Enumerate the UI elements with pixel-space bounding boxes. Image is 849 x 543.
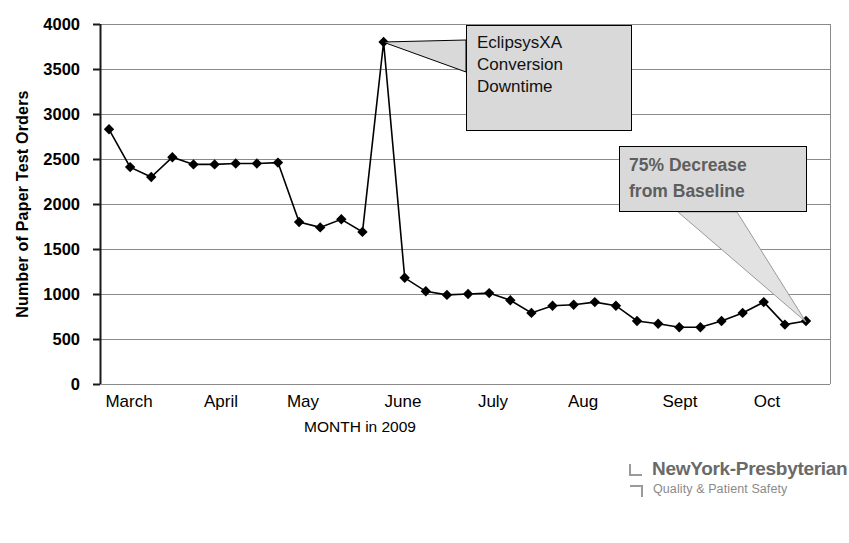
- data-point-marker: [716, 316, 726, 326]
- callout-percent-decrease: 75% Decrease from Baseline: [619, 146, 807, 212]
- logo-name: NewYork-Presbyterian: [652, 458, 847, 480]
- callout-eclipsys-line2: Conversion: [477, 54, 631, 76]
- data-point-marker: [568, 300, 578, 310]
- x-tick-oct: Oct: [712, 392, 822, 412]
- data-point-marker: [526, 308, 536, 318]
- callout-decrease-line2: from Baseline: [629, 178, 806, 204]
- data-point-marker: [695, 322, 705, 332]
- data-point-marker: [505, 295, 515, 305]
- logo-tagline: Quality & Patient Safety: [653, 482, 787, 496]
- data-point-marker: [674, 322, 684, 332]
- data-point-marker: [273, 157, 283, 167]
- callout-leader-eclipsys: [383, 40, 466, 72]
- data-point-marker: [315, 222, 325, 232]
- nyp-logo: NewYork-Presbyterian Quality & Patient S…: [628, 458, 843, 506]
- data-point-marker: [357, 227, 367, 237]
- data-point-marker: [484, 288, 494, 298]
- callout-eclipsys-line3: Downtime: [477, 76, 631, 98]
- data-point-marker: [653, 319, 663, 329]
- data-point-marker: [611, 301, 621, 311]
- data-point-marker: [737, 308, 747, 318]
- logo-bracket-icon: [628, 462, 648, 504]
- data-point-marker: [104, 124, 114, 134]
- callout-leader-decrease: [678, 212, 806, 322]
- y-axis-ticks: [93, 25, 100, 385]
- data-point-marker: [209, 159, 219, 169]
- data-point-marker: [463, 289, 473, 299]
- x-axis-title: MONTH in 2009: [0, 418, 720, 436]
- data-point-marker: [547, 301, 557, 311]
- paper-test-orders-chart: Number of Paper Test Orders 4000 3500 30…: [0, 0, 849, 543]
- x-tick-may: May: [248, 392, 358, 412]
- data-point-marker: [442, 290, 452, 300]
- data-point-marker: [294, 217, 304, 227]
- callout-eclipsys-line1: EclipsysXA: [477, 32, 631, 54]
- data-point-marker: [399, 273, 409, 283]
- data-point-marker: [590, 297, 600, 307]
- data-point-marker: [188, 159, 198, 169]
- data-point-marker: [125, 162, 135, 172]
- callout-decrease-line1: 75% Decrease: [629, 152, 806, 178]
- data-point-marker: [336, 214, 346, 224]
- callout-eclipsys-downtime: EclipsysXA Conversion Downtime: [466, 25, 632, 131]
- x-tick-aug: Aug: [528, 392, 638, 412]
- data-point-marker: [632, 316, 642, 326]
